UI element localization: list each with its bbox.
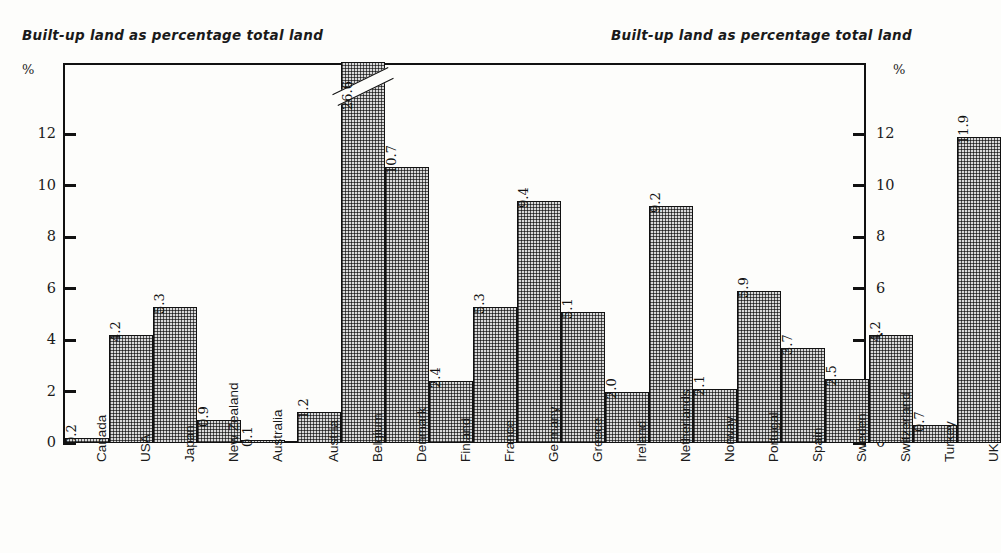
bar-value-australia: 0.1 xyxy=(241,427,254,448)
category-label-france: France xyxy=(503,420,517,462)
bar-belgium xyxy=(341,62,385,443)
bar-value-canada: 0.2 xyxy=(65,424,78,445)
category-label-belgium: Belgium xyxy=(371,413,385,462)
category-label-greece: Greece xyxy=(591,418,605,462)
category-label-new-zealand: New Zealand xyxy=(227,382,241,462)
category-label-denmark: Denmark xyxy=(415,407,429,462)
bar-usa xyxy=(109,335,153,443)
bar-value-norway: 2.1 xyxy=(693,375,706,396)
category-label-ireland: Ireland xyxy=(635,421,649,462)
category-label-usa: USA xyxy=(139,434,153,462)
category-label-finland: Finland xyxy=(459,418,473,462)
bar-value-netherlands: 9.2 xyxy=(649,192,662,213)
bar-japan xyxy=(153,307,197,443)
bar-value-sweden: 2.5 xyxy=(825,365,838,386)
bar-uk xyxy=(957,137,1001,443)
bar-value-france: 5.3 xyxy=(473,293,486,314)
bar-value-finland: 2.4 xyxy=(429,368,442,389)
bar-value-ireland: 2.0 xyxy=(605,378,618,399)
category-label-japan: Japan xyxy=(183,425,197,462)
bar-value-japan: 5.3 xyxy=(153,293,166,314)
bar-denmark xyxy=(385,167,429,443)
category-label-switzerland: Switzerland xyxy=(899,392,913,462)
category-label-austria: Austria xyxy=(327,420,341,462)
category-label-netherlands: Netherlands xyxy=(679,389,693,462)
bar-value-portugal: 5.9 xyxy=(737,277,750,298)
bar-value-belgium: 26.6 xyxy=(341,81,354,110)
category-label-germany: Germany xyxy=(547,406,561,462)
category-label-canada: Canada xyxy=(95,415,109,462)
bar-value-uk: 11.9 xyxy=(957,115,970,144)
category-label-sweden: Sweden xyxy=(855,413,869,462)
bar-value-spain: 3.7 xyxy=(781,334,794,355)
category-label-norway: Norway xyxy=(723,416,737,462)
bar-value-turkey: 0.7 xyxy=(913,411,926,432)
bar-value-greece: 5.1 xyxy=(561,298,574,319)
bar-value-new-zealand: 0.9 xyxy=(197,406,210,427)
category-label-uk: UK xyxy=(987,443,1001,462)
bar-value-denmark: 10.7 xyxy=(385,146,398,175)
category-label-australia: Australia xyxy=(271,409,285,462)
category-label-spain: Spain xyxy=(811,427,825,462)
category-label-turkey: Turkey xyxy=(943,421,957,462)
category-label-portugal: Portugal xyxy=(767,412,781,462)
bar-value-germany: 9.4 xyxy=(517,187,530,208)
bar-value-usa: 4.2 xyxy=(109,321,122,342)
bar-value-switzerland: 4.2 xyxy=(869,321,882,342)
bar-value-austria: 1.2 xyxy=(297,398,310,419)
